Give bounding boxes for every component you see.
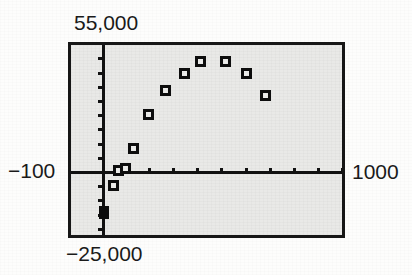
y-axis-tick	[98, 199, 103, 202]
plot-frame	[68, 42, 345, 238]
data-point-marker	[195, 56, 206, 67]
y-axis-tick	[98, 114, 103, 117]
data-point-marker	[120, 163, 131, 174]
x-axis-tick	[245, 168, 248, 172]
x-axis-tick	[220, 168, 223, 172]
data-point-marker	[108, 180, 119, 191]
y-axis-tick	[98, 128, 103, 131]
y-axis-max-label: 55,000	[74, 11, 138, 35]
x-axis-tick	[196, 168, 199, 172]
data-point-marker	[99, 206, 109, 219]
y-axis-tick	[98, 72, 103, 75]
data-point-marker	[241, 68, 252, 79]
x-axis-min-label: −100	[8, 159, 55, 183]
data-point-marker	[160, 85, 171, 96]
plot-area	[71, 45, 342, 235]
y-axis-tick	[98, 86, 103, 89]
y-axis-tick	[98, 228, 103, 231]
y-axis-tick	[98, 57, 103, 60]
y-axis-tick	[98, 100, 103, 103]
x-axis-tick	[269, 168, 272, 172]
y-axis-min-label: −25,000	[66, 242, 143, 266]
data-point-marker	[128, 143, 139, 154]
data-point-marker	[143, 109, 154, 120]
data-point-marker	[179, 68, 190, 79]
data-point-marker	[220, 56, 231, 67]
data-point-marker	[260, 90, 271, 101]
x-axis-tick	[341, 168, 344, 172]
x-axis-tick	[317, 168, 320, 172]
y-axis-tick	[98, 157, 103, 160]
y-axis-tick	[98, 185, 103, 188]
x-axis-tick	[148, 168, 151, 172]
x-axis-tick	[172, 168, 175, 172]
x-axis-max-label: 1000	[352, 160, 399, 184]
y-axis-tick	[98, 143, 103, 146]
x-axis-tick	[293, 168, 296, 172]
